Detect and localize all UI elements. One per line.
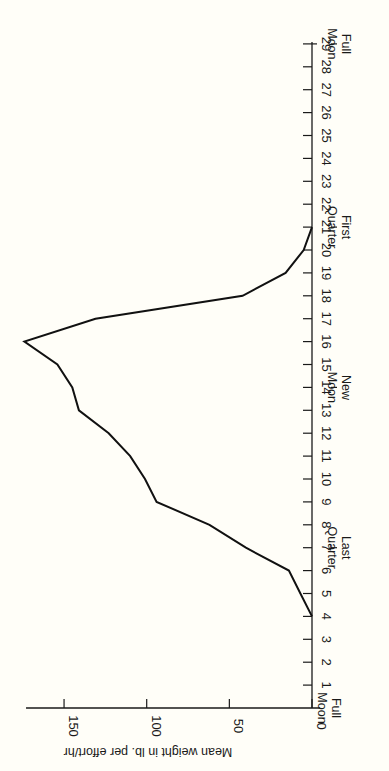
day-tick-label: 17 [319,311,334,325]
day-tick-label: 19 [319,266,334,280]
day-tick-label: 26 [319,105,334,119]
day-tick-label: 28 [319,60,334,74]
value-tick-label: 100 [149,715,164,737]
lunar-catch-chart: 1234567891011121314151617181920212223242… [0,0,389,771]
day-tick-label: 5 [319,590,334,597]
day-tick-label: 4 [319,613,334,620]
day-tick-label: 15 [319,357,334,371]
phase-label-line1: First [339,215,353,240]
day-tick-label: 24 [319,151,334,165]
phase-label-line2: Moon [325,372,339,403]
day-tick-label: 18 [319,289,334,303]
phase-label-line2: Moon [315,692,329,723]
phase-label-line1: Full [339,34,353,54]
phase-label-line2: Moon [325,28,339,59]
phase-label-line1: Last [339,536,353,560]
phase-label-line1: Full [329,698,343,718]
day-tick-label: 2 [319,659,334,666]
mean-weight-line [24,227,312,616]
day-tick-label: 12 [319,426,334,440]
day-tick-label: 11 [319,449,334,463]
value-axis: 050100150 [26,699,329,737]
day-tick-label: 1 [319,681,334,688]
value-axis-title: Mean weight in lb. per effort/hr [64,745,233,759]
day-tick-label: 10 [319,472,334,486]
phase-label-line2: Quarter [325,527,339,569]
day-tick-label: 27 [319,82,334,96]
day-tick-label: 23 [319,174,334,188]
day-tick-label: 3 [319,636,334,643]
value-tick-label: 50 [231,719,246,733]
phase-label-line1: New [339,375,353,401]
day-tick-label: 9 [319,498,334,505]
day-tick-label: 13 [319,403,334,417]
phase-label-line2: Quarter [325,206,339,248]
value-tick-label: 150 [66,715,81,737]
day-tick-label: 25 [319,128,334,142]
day-tick-label: 16 [319,334,334,348]
